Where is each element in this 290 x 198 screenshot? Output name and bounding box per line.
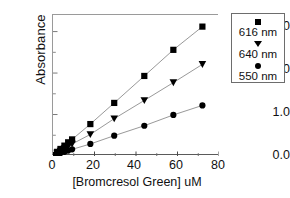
x-tick-label-3: 60 bbox=[156, 158, 196, 172]
x-tick-label-2: 40 bbox=[114, 158, 154, 172]
x-tick-label-4: 80 bbox=[198, 158, 238, 172]
y-axis-title: Absorbance bbox=[33, 8, 48, 92]
legend-item-640: 640 nm bbox=[232, 39, 284, 60]
plot-frame bbox=[52, 14, 218, 155]
y-tick-label-0: 0.0 bbox=[244, 148, 290, 162]
plot-canvas bbox=[53, 15, 219, 156]
legend-item-616: 616 nm bbox=[232, 17, 284, 38]
legend-label-550: 550 nm bbox=[239, 70, 277, 82]
plot-area bbox=[53, 15, 218, 154]
y-tick-label-1: 1.0 bbox=[244, 105, 290, 119]
chart-legend: 616 nm 640 nm 550 nm bbox=[231, 13, 285, 83]
legend-item-550: 550 nm bbox=[232, 61, 284, 82]
circle-marker-icon bbox=[255, 61, 261, 70]
x-axis-title: [Bromcresol Green] uM bbox=[34, 175, 240, 189]
x-tick-label-1: 20 bbox=[73, 158, 113, 172]
triangle-down-marker-icon bbox=[254, 39, 262, 48]
chart-figure: Absorbance 3.0 2.0 1.0 0.0 0 20 40 60 80… bbox=[0, 0, 290, 198]
legend-label-616: 616 nm bbox=[239, 26, 277, 38]
x-tick-label-0: 0 bbox=[32, 158, 72, 172]
legend-label-640: 640 nm bbox=[239, 48, 277, 60]
square-marker-icon bbox=[255, 17, 261, 26]
